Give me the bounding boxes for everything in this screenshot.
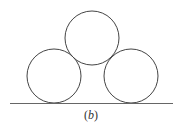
circle-stack-diagram: (b) [0,0,182,130]
figure-caption: (b) [0,108,182,123]
caption-letter: b [88,108,94,122]
right-circle [104,49,158,103]
top-circle [65,11,119,65]
